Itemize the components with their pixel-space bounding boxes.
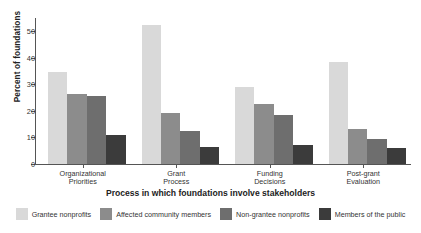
bar [274,115,293,164]
x-axis-tick [83,164,84,168]
bar [180,131,199,164]
x-axis-tick [176,164,177,168]
bar-group [329,18,407,164]
legend-label: Non-grantee nonprofits [236,210,310,219]
legend-item[interactable]: Non-grantee nonprofits [220,208,310,220]
x-axis-tick [270,164,271,168]
bar [348,129,367,164]
y-axis-tick-label: 50 [9,27,35,36]
bar [48,72,67,164]
bar-group [235,18,313,164]
legend-label: Grantee nonprofits [32,210,92,219]
legend-label: Members of the public [335,210,406,219]
y-axis-tick-label: 10 [9,133,35,142]
legend-swatch-icon [100,208,112,220]
bar [67,94,86,164]
x-axis-title: Process in which foundations involve sta… [0,188,421,198]
bar-chart: Percent of foundations 01020304050 Organ… [0,0,421,233]
bar [142,25,161,164]
legend-item[interactable]: Grantee nonprofits [16,208,92,220]
legend-swatch-icon [319,208,331,220]
bar [367,139,386,164]
bar [293,145,312,164]
bar [87,96,106,164]
legend-item[interactable]: Affected community members [100,208,211,220]
bar [200,147,219,164]
bar [161,113,180,164]
y-axis-tick-label: 30 [9,80,35,89]
legend-item[interactable]: Members of the public [319,208,406,220]
x-axis-tick [363,164,364,168]
legend-swatch-icon [220,208,232,220]
bar-group [48,18,126,164]
bar-group [142,18,220,164]
x-axis-tick-label-line: Evaluation [308,178,418,186]
legend-swatch-icon [16,208,28,220]
chart-legend: Grantee nonprofitsAffected community mem… [0,208,421,220]
x-axis-line [35,164,411,165]
bar [254,104,273,164]
x-axis-tick-label: Post-grantEvaluation [308,170,418,187]
y-axis-tick-label: 20 [9,107,35,116]
y-axis-tick-label: 40 [9,54,35,63]
bar [235,87,254,164]
plot-area [36,18,410,164]
legend-label: Affected community members [116,210,211,219]
y-axis-tick-label: 0 [9,160,35,169]
bar [329,62,348,164]
bar [387,148,406,164]
bar [106,135,125,164]
